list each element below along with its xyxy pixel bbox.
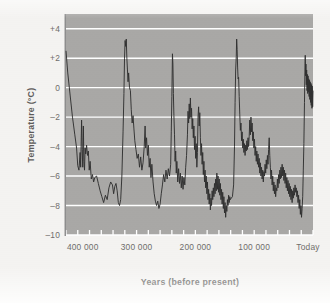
x-axis-title: Years (before present) — [141, 277, 239, 287]
x-tick-label: 200 000 — [180, 242, 212, 252]
x-tick-label: 300 000 — [121, 242, 153, 252]
y-axis-tick-labels: +4+20–2–4–6–8–10 — [45, 24, 60, 240]
x-axis-tick-labels: 400 000300 000200 000100 000Today — [67, 242, 320, 252]
temperature-line-chart: +4+20–2–4–6–8–10 400 000300 000200 00010… — [0, 0, 330, 303]
x-tick-label: 400 000 — [67, 242, 99, 252]
y-tick-label: +4 — [50, 24, 60, 34]
y-tick-label: –2 — [50, 112, 60, 122]
x-tick-label: 100 000 — [238, 242, 270, 252]
y-tick-label: –8 — [50, 201, 60, 211]
figure-container: +4+20–2–4–6–8–10 400 000300 000200 00010… — [0, 0, 330, 303]
y-tick-label: –6 — [50, 171, 60, 181]
y-axis-title: Temperature (°C) — [26, 88, 36, 163]
y-tick-label: +2 — [50, 53, 60, 63]
y-tick-label: –4 — [50, 142, 60, 152]
chart-plot-wrapper: +4+20–2–4–6–8–10 400 000300 000200 00010… — [0, 0, 330, 303]
x-tick-label: Today — [296, 242, 320, 252]
y-tick-label: –10 — [45, 230, 60, 240]
y-tick-label: 0 — [55, 83, 60, 93]
